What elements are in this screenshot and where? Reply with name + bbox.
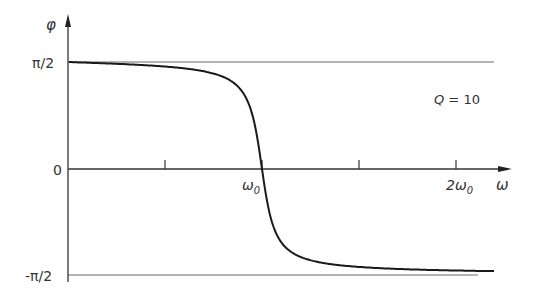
y-tick-label-zero: 0 xyxy=(53,162,62,178)
x-ticks xyxy=(165,160,456,169)
x-tick-label-2w0: 2ω0 xyxy=(446,177,473,196)
y-axis-arrow-icon xyxy=(65,14,71,27)
x-axis-arrow-icon xyxy=(498,166,512,172)
w0-subscript: 0 xyxy=(254,185,260,196)
y-tick-label-pi-half: π/2 xyxy=(32,55,54,71)
2w0-symbol: 2ω xyxy=(446,177,467,193)
w0-symbol: ω xyxy=(242,177,254,193)
x-tick-label-w0: ω0 xyxy=(242,177,260,196)
q-symbol: Q xyxy=(434,92,444,107)
phase-curve xyxy=(69,62,494,271)
y-axis-label: φ xyxy=(46,16,56,34)
2w0-subscript: 0 xyxy=(467,185,473,196)
phase-response-chart: φ π/2 0 -π/2 ω0 2ω0 ω Q = 10 xyxy=(0,0,541,302)
q-value: = 10 xyxy=(444,92,480,107)
y-tick-label-neg-pi-half: -π/2 xyxy=(25,268,52,284)
q-annotation: Q = 10 xyxy=(434,92,480,107)
x-axis-label: ω xyxy=(496,176,509,194)
